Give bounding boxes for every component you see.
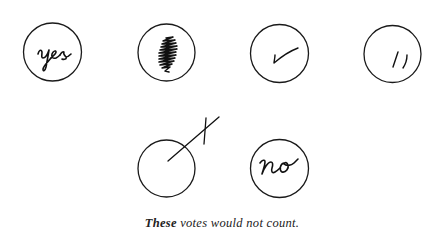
caption-lead: These xyxy=(145,216,177,230)
ballot-no xyxy=(251,140,309,198)
ballot-circle xyxy=(364,26,421,83)
ballot-check xyxy=(251,25,309,83)
scribble-icon xyxy=(159,37,177,72)
double-slash-icon xyxy=(393,52,407,68)
ballot-cross-outside xyxy=(138,117,219,197)
caption-text: votes would not count. xyxy=(177,216,300,230)
ballot-circle xyxy=(251,25,309,83)
ballot-scribble xyxy=(138,24,195,81)
ballot-marks xyxy=(0,0,444,236)
handwritten-no-icon xyxy=(260,159,298,174)
figure-caption: These votes would not count. xyxy=(0,216,444,231)
ballot-slashes xyxy=(364,26,421,83)
ballot-yes xyxy=(24,23,82,81)
check-mark-icon xyxy=(274,48,298,63)
handwritten-yes-icon xyxy=(38,50,71,71)
ballot-figure: These votes would not count. xyxy=(0,0,444,236)
ballot-circle xyxy=(138,140,195,197)
cross-mark-icon xyxy=(168,117,219,161)
